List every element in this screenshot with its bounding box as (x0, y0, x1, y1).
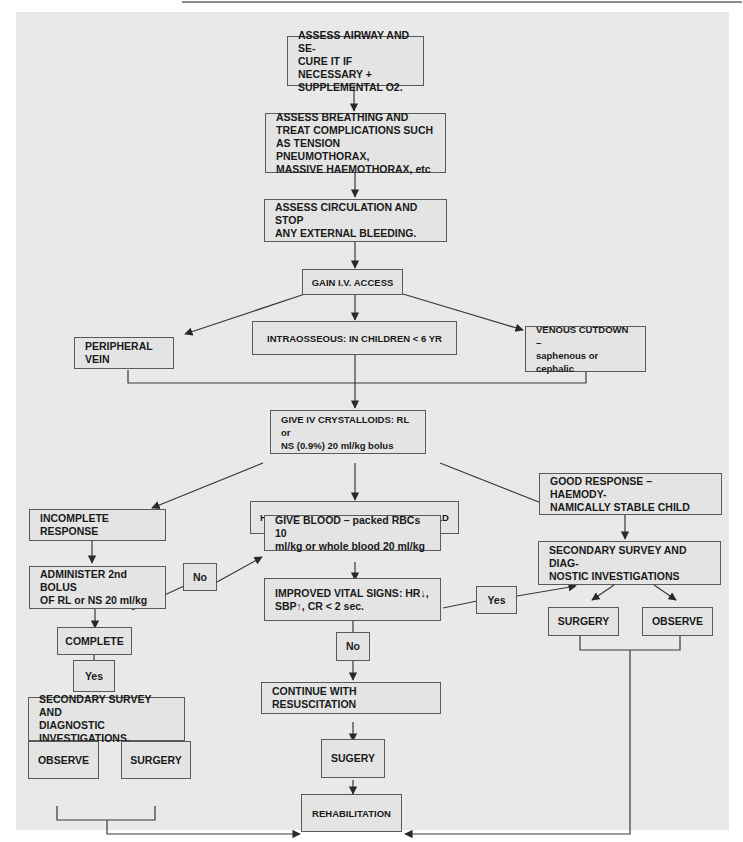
node-yes-left: Yes (73, 660, 115, 692)
node-yes-right: Yes (476, 586, 517, 614)
node-continue-resuscitation: CONTINUE WITH RESUSCITATION (261, 682, 441, 714)
node-label: OBSERVE (652, 615, 703, 628)
node-label: SECONDARY SURVEY AND DIAG- NOSTIC INVEST… (549, 544, 710, 583)
node-observe-left: OBSERVE (28, 741, 99, 779)
node-secondary-survey-left: SECONDARY SURVEY AND DIAGNOSTIC INVESTIG… (28, 697, 185, 741)
node-label: Yes (487, 594, 505, 607)
node-no-center: No (336, 632, 370, 661)
node-label: OBSERVE (38, 754, 89, 767)
node-label: ASSESS AIRWAY AND SE- CURE IT IF NECESSA… (298, 29, 413, 94)
node-label: GIVE IV CRYSTALLOIDS: RL or NS (0.9%) 20… (281, 413, 415, 452)
node-give-crystalloids: GIVE IV CRYSTALLOIDS: RL or NS (0.9%) 20… (270, 410, 426, 454)
node-assess-airway: ASSESS AIRWAY AND SE- CURE IT IF NECESSA… (287, 36, 424, 86)
node-improved-vital-signs: IMPROVED VITAL SIGNS: HR↓, SBP↑, CR < 2 … (264, 578, 441, 621)
node-label: VENOUS CUTDOWN – saphenous or cephalic (536, 323, 635, 375)
node-no-left: No (183, 563, 217, 591)
node-label: SURGERY (558, 615, 610, 628)
node-label: ADMINISTER 2nd BOLUS OF RL or NS 20 ml/k… (40, 568, 155, 607)
node-label: COMPLETE (65, 635, 123, 648)
node-label: GOOD RESPONSE – HAEMODY- NAMICALLY STABL… (550, 475, 711, 514)
node-label: GAIN I.V. ACCESS (312, 276, 394, 289)
node-complete: COMPLETE (57, 627, 132, 655)
node-label: IMPROVED VITAL SIGNS: HR↓, SBP↑, CR < 2 … (275, 587, 429, 613)
node-label: GIVE BLOOD – packed RBCs 10 ml/kg or who… (275, 514, 430, 553)
node-good-response: GOOD RESPONSE – HAEMODY- NAMICALLY STABL… (539, 473, 722, 515)
node-venous-cutdown: VENOUS CUTDOWN – saphenous or cephalic (525, 326, 646, 372)
node-assess-breathing: ASSESS BREATHING AND TREAT COMPLICATIONS… (265, 113, 446, 173)
node-surgery-right: SURGERY (548, 607, 619, 636)
node-label: INCOMPLETE RESPONSE (40, 512, 155, 538)
node-give-blood: GIVE BLOOD – packed RBCs 10 ml/kg or who… (264, 515, 441, 551)
node-second-bolus: ADMINISTER 2nd BOLUS OF RL or NS 20 ml/k… (29, 566, 166, 609)
node-label: SUGERY (331, 752, 375, 765)
node-secondary-survey-right: SECONDARY SURVEY AND DIAG- NOSTIC INVEST… (538, 541, 721, 585)
node-incomplete-response: INCOMPLETE RESPONSE (29, 509, 166, 541)
node-label: ASSESS CIRCULATION AND STOP ANY EXTERNAL… (275, 201, 436, 240)
node-label: PERIPHERAL VEIN (85, 340, 163, 366)
node-surgery-left: SURGERY (121, 741, 191, 779)
node-label: No (346, 640, 360, 653)
node-label: No (193, 571, 207, 584)
node-observe-right: OBSERVE (642, 607, 713, 636)
node-label: INTRAOSSEOUS: IN CHILDREN < 6 YR (267, 332, 442, 345)
node-label: SURGERY (130, 754, 182, 767)
node-label: SECONDARY SURVEY AND DIAGNOSTIC INVESTIG… (39, 693, 174, 745)
page-top-rule (182, 1, 742, 3)
node-assess-circulation: ASSESS CIRCULATION AND STOP ANY EXTERNAL… (264, 199, 447, 242)
node-gain-iv-access: GAIN I.V. ACCESS (302, 269, 403, 295)
node-label: CONTINUE WITH RESUSCITATION (272, 685, 430, 711)
node-label: ASSESS BREATHING AND TREAT COMPLICATIONS… (276, 111, 435, 176)
node-intraosseous: INTRAOSSEOUS: IN CHILDREN < 6 YR (252, 321, 457, 355)
node-peripheral-vein: PERIPHERAL VEIN (74, 337, 174, 369)
node-label: Yes (85, 670, 103, 683)
node-label: REHABILITATION (312, 807, 391, 820)
node-sugery-center: SUGERY (321, 739, 385, 778)
node-rehabilitation: REHABILITATION (301, 794, 402, 832)
